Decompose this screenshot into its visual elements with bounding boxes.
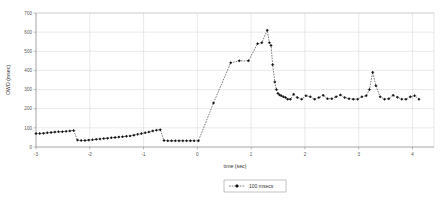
y-axis-ticks: 0100200300400500600700 (24, 11, 36, 150)
y-tick-label: 700 (24, 11, 32, 16)
data-point-marker (275, 88, 278, 91)
x-tick-label: 0 (196, 152, 199, 157)
data-point-marker (133, 134, 136, 137)
x-axis-ticks: -3-2-101234 (34, 147, 414, 157)
y-tick-label: 200 (24, 106, 32, 111)
line-chart: 0100200300400500600700-3-2-101234time (s… (0, 0, 445, 204)
data-point-marker (174, 140, 177, 143)
data-point-marker (42, 132, 45, 135)
plot-frame (36, 13, 434, 147)
x-tick-label: 4 (411, 152, 414, 157)
data-point-marker (247, 60, 250, 63)
y-tick-label: 100 (24, 126, 32, 131)
data-point-marker (331, 98, 334, 101)
data-point-marker (193, 140, 196, 143)
y-tick-label: 500 (24, 49, 32, 54)
data-point-marker (405, 98, 408, 101)
data-point-marker (274, 81, 277, 84)
data-point-marker (322, 94, 325, 97)
data-point-marker (335, 96, 338, 99)
data-point-marker (65, 130, 68, 133)
data-point-marker (409, 96, 412, 99)
data-point-marker (352, 98, 355, 101)
data-point-marker (396, 96, 399, 99)
data-point-marker (80, 139, 83, 142)
y-tick-label: 600 (24, 30, 32, 35)
data-point-marker (54, 131, 57, 134)
data-point-marker (99, 138, 102, 141)
data-point-marker (309, 96, 312, 99)
y-tick-label: 0 (29, 145, 32, 150)
y-axis-title: OWD (msec) (5, 65, 11, 95)
x-tick-label: -2 (88, 152, 93, 157)
data-point-marker (125, 135, 128, 138)
data-point-marker (72, 129, 75, 132)
data-point-marker (69, 130, 72, 133)
data-point-marker (343, 96, 346, 99)
chart-legend: 100 msecs (224, 180, 286, 192)
data-point-marker (61, 130, 64, 133)
data-point-marker (189, 140, 192, 143)
data-point-marker (46, 132, 49, 135)
data-point-marker (313, 98, 316, 101)
data-point-marker (50, 131, 53, 134)
data-point-marker (418, 98, 421, 101)
data-point-marker (39, 132, 42, 135)
data-point-marker (155, 129, 158, 132)
data-point-marker (375, 84, 378, 87)
data-point-marker (261, 41, 264, 44)
data-point-marker (114, 136, 117, 139)
data-point-marker (148, 131, 151, 134)
horizontal-gridlines (36, 13, 434, 128)
x-tick-label: 2 (304, 152, 307, 157)
data-point-marker (129, 135, 132, 138)
legend-entry-label: 100 msecs (249, 183, 274, 189)
data-point-marker (368, 88, 371, 91)
data-point-marker (151, 130, 154, 133)
chart-container: 0100200300400500600700-3-2-101234time (s… (0, 0, 445, 204)
data-point-marker (185, 140, 188, 143)
x-tick-label: -1 (142, 152, 147, 157)
data-point-marker (379, 96, 382, 99)
data-point-marker (136, 133, 139, 136)
data-point-marker (118, 136, 121, 139)
data-point-marker (110, 137, 113, 140)
vertical-gridlines (90, 13, 413, 147)
data-point-marker (159, 129, 162, 132)
data-point-marker (182, 140, 185, 143)
data-point-marker (361, 96, 364, 99)
data-point-marker (76, 139, 79, 142)
data-point-marker (268, 41, 271, 44)
data-point-marker (256, 42, 259, 45)
data-point-marker (35, 132, 38, 135)
y-axis-title-group: OWD (msec) (5, 65, 11, 95)
series-line (36, 30, 419, 141)
data-point-marker (371, 71, 374, 74)
data-point-marker (383, 98, 386, 101)
data-point-marker (339, 94, 342, 97)
x-tick-label: 3 (357, 152, 360, 157)
data-point-marker (178, 140, 181, 143)
data-point-marker (103, 137, 106, 140)
data-point-marker (106, 137, 109, 140)
data-point-marker (413, 94, 416, 97)
data-point-marker (318, 96, 321, 99)
axes (36, 13, 434, 147)
x-tick-label: 1 (250, 152, 253, 157)
data-point-marker (365, 94, 368, 97)
data-point-marker (270, 44, 273, 47)
data-point-marker (84, 139, 87, 142)
chart-plot-area: 0100200300400500600700-3-2-101234time (s… (0, 0, 445, 204)
data-point-marker (212, 102, 215, 105)
data-point-marker (348, 98, 351, 101)
data-point-marker (144, 132, 147, 135)
y-tick-label: 400 (24, 68, 32, 73)
data-point-marker (95, 138, 98, 141)
data-point-marker (229, 62, 232, 64)
data-point-marker (163, 139, 166, 142)
y-tick-label: 300 (24, 87, 32, 92)
data-point-marker (271, 63, 274, 66)
data-series (35, 29, 420, 142)
data-point-marker (167, 140, 170, 143)
x-axis-title: time (sec) (224, 163, 247, 169)
